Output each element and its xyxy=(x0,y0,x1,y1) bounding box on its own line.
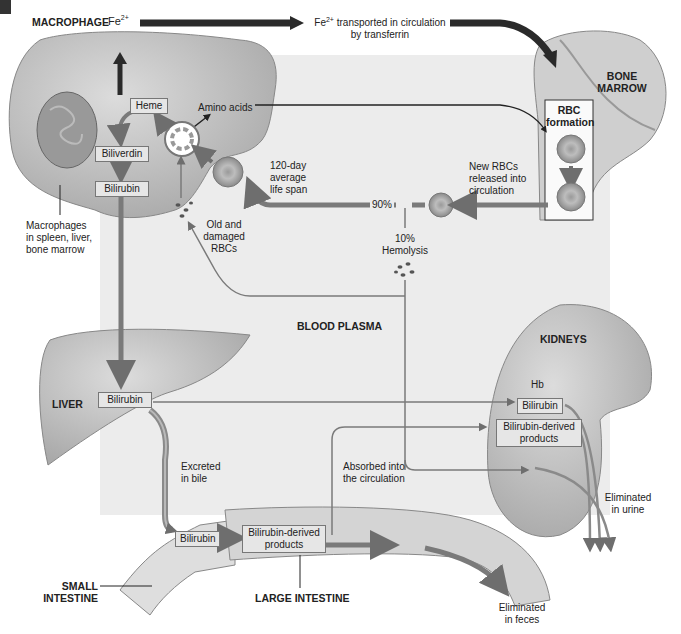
hemolysis-label: 10% Hemolysis xyxy=(380,233,430,257)
bilirubin-derived-intestine-box: Bilirubin-derived products xyxy=(242,525,326,553)
macrophage-locations-label: Macrophages in spleen, liver, bone marro… xyxy=(26,220,92,256)
bilirubin-kidney-box: Bilirubin xyxy=(517,398,563,414)
new-rbc-icon xyxy=(557,183,585,211)
fe-macrophage-label: Fe2+ xyxy=(108,12,129,27)
eliminated-feces-label: Eliminated in feces xyxy=(492,602,552,626)
kidneys-label: KIDNEYS xyxy=(540,333,587,345)
forming-rbc-icon xyxy=(557,135,585,163)
bilirubin-liver-box: Bilirubin xyxy=(98,392,152,408)
bone-marrow-label: BONE MARROW xyxy=(592,70,652,94)
new-rbcs-label: New RBCs released into circulation xyxy=(469,161,526,197)
amino-acids-label: Amino acids xyxy=(198,102,252,114)
circulating-rbc-icon xyxy=(429,193,453,217)
large-intestine-label: LARGE INTESTINE xyxy=(255,592,350,604)
small-intestine-label: SMALL INTESTINE xyxy=(40,580,98,604)
old-rbcs-label: Old and damaged RBCs xyxy=(198,219,250,255)
biliverdin-box: Biliverdin xyxy=(95,146,149,162)
macrophage-label: MACROPHAGE xyxy=(32,16,109,28)
rbc-formation-label: RBC formation xyxy=(546,104,592,128)
blood-plasma-label: BLOOD PLASMA xyxy=(297,320,382,332)
absorbed-label: Absorbed into the circulation xyxy=(343,461,405,485)
bilirubin-derived-kidney-box: Bilirubin-derived products xyxy=(496,419,582,447)
diagram-canvas xyxy=(0,0,681,634)
bilirubin-macrophage-box: Bilirubin xyxy=(95,181,149,197)
eliminated-urine-label: Eliminated in urine xyxy=(598,492,658,516)
fe-transport-label: Fe2+ transported in circulation by trans… xyxy=(300,14,460,41)
liver-label: LIVER xyxy=(52,398,83,410)
aging-rbc-icon xyxy=(213,157,243,187)
heme-box: Heme xyxy=(130,98,168,114)
bilirubin-intestine-box: Bilirubin xyxy=(175,531,220,547)
hb-label: Hb xyxy=(531,379,544,391)
pct-90-label: 90% xyxy=(370,199,394,211)
degrading-rbc-icon xyxy=(165,122,199,156)
macrophage-nucleus xyxy=(37,92,97,168)
lifespan-label: 120-day average life span xyxy=(270,160,307,196)
excreted-bile-label: Excreted in bile xyxy=(181,461,220,485)
